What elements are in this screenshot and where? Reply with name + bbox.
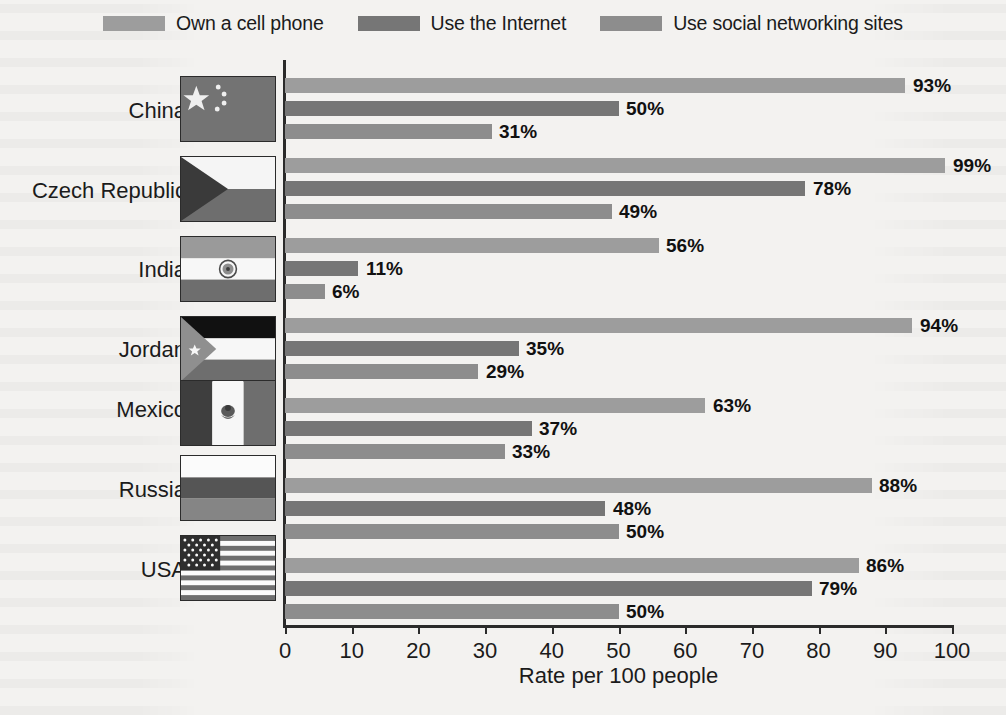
flag-mexico-icon bbox=[180, 380, 276, 446]
bar-value-label: 63% bbox=[713, 398, 751, 413]
bar-group-usa: 86% 79% 50% bbox=[285, 558, 952, 630]
x-tick-label: 70 bbox=[740, 638, 764, 664]
bar-value-label: 6% bbox=[332, 284, 359, 299]
bar-group-mexico: 63% 37% 33% bbox=[285, 398, 952, 470]
bar-value-label: 11% bbox=[366, 261, 403, 276]
category-label-czech-republic: Czech Republic bbox=[32, 180, 186, 202]
x-tick-label: 20 bbox=[406, 638, 430, 664]
bar-india-use-the-internet[interactable] bbox=[285, 261, 358, 276]
x-tick-label: 40 bbox=[540, 638, 564, 664]
bar-value-label: 37% bbox=[539, 421, 577, 436]
flag-usa-icon bbox=[180, 535, 276, 601]
bar-china-use-the-internet[interactable] bbox=[285, 101, 619, 116]
bar-value-label: 56% bbox=[666, 238, 704, 253]
bar-group-czech-republic: 99% 78% 49% bbox=[285, 158, 952, 230]
legend-item-own-a-cell-phone[interactable]: Own a cell phone bbox=[103, 12, 323, 35]
bar-russia-use-the-internet[interactable] bbox=[285, 501, 605, 516]
category-label-india: India bbox=[138, 259, 186, 281]
bar-value-label: 31% bbox=[499, 124, 537, 139]
bar-czech-republic-own-a-cell-phone[interactable] bbox=[285, 158, 945, 173]
bar-value-label: 33% bbox=[512, 444, 550, 459]
legend-label: Use the Internet bbox=[431, 12, 567, 35]
bar-value-label: 35% bbox=[526, 341, 564, 356]
bar-russia-own-a-cell-phone[interactable] bbox=[285, 478, 872, 493]
chart-legend: Own a cell phone Use the Internet Use so… bbox=[0, 12, 1006, 35]
category-label-russia: Russia bbox=[119, 479, 186, 501]
legend-swatch-icon bbox=[600, 16, 662, 31]
bar-usa-use-social-networking-sites[interactable] bbox=[285, 604, 619, 619]
bar-group-jordan: 94% 35% 29% bbox=[285, 318, 952, 390]
bar-usa-own-a-cell-phone[interactable] bbox=[285, 558, 859, 573]
bar-group-russia: 88% 48% 50% bbox=[285, 478, 952, 550]
bar-czech-republic-use-the-internet[interactable] bbox=[285, 181, 805, 196]
bar-value-label: 88% bbox=[879, 478, 917, 493]
legend-swatch-icon bbox=[358, 16, 420, 31]
bar-value-label: 50% bbox=[626, 101, 664, 116]
bar-czech-republic-use-social-networking-sites[interactable] bbox=[285, 204, 612, 219]
bar-value-label: 79% bbox=[819, 581, 857, 596]
bar-value-label: 49% bbox=[619, 204, 657, 219]
legend-label: Use social networking sites bbox=[673, 12, 903, 35]
x-axis-title: Rate per 100 people bbox=[285, 663, 952, 689]
bar-value-label: 94% bbox=[920, 318, 958, 333]
legend-item-use-the-internet[interactable]: Use the Internet bbox=[358, 12, 567, 35]
bar-mexico-use-social-networking-sites[interactable] bbox=[285, 444, 505, 459]
bar-jordan-use-the-internet[interactable] bbox=[285, 341, 519, 356]
x-tick-label: 30 bbox=[473, 638, 497, 664]
bar-china-own-a-cell-phone[interactable] bbox=[285, 78, 905, 93]
bar-chart: Own a cell phone Use the Internet Use so… bbox=[0, 0, 1006, 715]
legend-swatch-icon bbox=[103, 16, 165, 31]
flag-jordan-icon bbox=[180, 316, 276, 382]
bar-mexico-own-a-cell-phone[interactable] bbox=[285, 398, 705, 413]
category-label-mexico: Mexico bbox=[116, 399, 186, 421]
legend-label: Own a cell phone bbox=[176, 12, 323, 35]
x-tick-100 bbox=[952, 625, 954, 634]
bar-china-use-social-networking-sites[interactable] bbox=[285, 124, 492, 139]
bar-india-use-social-networking-sites[interactable] bbox=[285, 284, 325, 299]
x-tick-label: 80 bbox=[806, 638, 830, 664]
bar-mexico-use-the-internet[interactable] bbox=[285, 421, 532, 436]
flag-india-icon bbox=[180, 236, 276, 302]
bar-jordan-own-a-cell-phone[interactable] bbox=[285, 318, 912, 333]
bar-value-label: 86% bbox=[866, 558, 904, 573]
bar-value-label: 29% bbox=[486, 364, 524, 379]
plot-area: 0 10 20 30 40 50 60 70 80 90 100 93% 50%… bbox=[285, 60, 952, 625]
bar-value-label: 50% bbox=[626, 524, 664, 539]
x-tick-label: 100 bbox=[934, 638, 971, 664]
x-tick-label: 60 bbox=[673, 638, 697, 664]
bar-russia-use-social-networking-sites[interactable] bbox=[285, 524, 619, 539]
x-tick-label: 10 bbox=[339, 638, 363, 664]
category-label-china: China bbox=[129, 100, 186, 122]
legend-item-use-social-networking-sites[interactable]: Use social networking sites bbox=[600, 12, 903, 35]
bar-group-india: 56% 11% 6% bbox=[285, 238, 952, 310]
flag-russia-icon bbox=[180, 455, 276, 521]
bar-group-china: 93% 50% 31% bbox=[285, 78, 952, 150]
bar-value-label: 93% bbox=[913, 78, 951, 93]
flag-czech-republic-icon bbox=[180, 156, 276, 222]
bar-value-label: 78% bbox=[813, 181, 851, 196]
bar-value-label: 48% bbox=[613, 501, 651, 516]
x-tick-label: 0 bbox=[279, 638, 291, 664]
bar-jordan-use-social-networking-sites[interactable] bbox=[285, 364, 478, 379]
bar-usa-use-the-internet[interactable] bbox=[285, 581, 812, 596]
bar-india-own-a-cell-phone[interactable] bbox=[285, 238, 659, 253]
category-label-jordan: Jordan bbox=[119, 339, 186, 361]
x-tick-label: 50 bbox=[606, 638, 630, 664]
x-tick-label: 90 bbox=[873, 638, 897, 664]
flag-china-icon bbox=[180, 76, 276, 142]
bar-value-label: 99% bbox=[953, 158, 991, 173]
bar-value-label: 50% bbox=[626, 604, 664, 619]
